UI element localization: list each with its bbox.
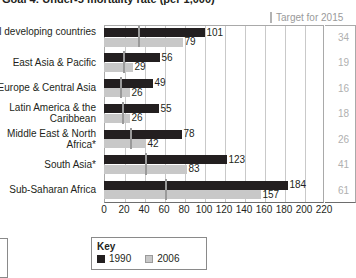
legend-swatch-2006: [145, 255, 153, 263]
bar-1990: [104, 181, 288, 190]
target-value: 18: [325, 108, 349, 119]
bar-value-2006: 42: [148, 139, 159, 149]
legend: Key 19902006: [91, 237, 207, 270]
target-column-header-label: Target for 2015: [276, 12, 343, 23]
category-label: Latin America & the Caribbean: [0, 102, 96, 124]
gridline: [185, 26, 186, 202]
bar-value-1990: 49: [155, 78, 166, 88]
target-value: 41: [325, 159, 349, 170]
legend-label: 2006: [157, 254, 179, 264]
bar-value-1990: 56: [162, 53, 173, 63]
bar-value-1990: 55: [161, 104, 172, 114]
category-label: All developing countries: [0, 26, 96, 37]
legend-item: 2006: [145, 254, 179, 264]
bar-value-2006: 79: [185, 37, 196, 47]
bar-1990: [104, 130, 182, 139]
legend-items: 19902006: [97, 254, 206, 264]
bar-2006: [104, 190, 261, 199]
bar-value-1990: 101: [207, 28, 224, 38]
gridline: [205, 26, 206, 202]
bar-2006: [104, 88, 130, 97]
gridline: [145, 26, 146, 202]
bar-value-2006: 26: [132, 113, 143, 123]
legend-swatch-1990: [97, 255, 105, 263]
legend-title: Key: [97, 241, 206, 252]
target-marker: [138, 26, 140, 47]
x-axis: 020406080100120140160180200220: [104, 204, 325, 218]
target-marker: [120, 77, 122, 98]
target-value: 19: [325, 57, 349, 68]
bar-value-2006: 29: [135, 62, 146, 72]
bar-2006: [104, 63, 133, 72]
bar-1990: [104, 53, 160, 62]
gridline: [285, 26, 286, 202]
decorative-corner-box: [0, 238, 8, 278]
gridline: [245, 26, 246, 202]
target-value-column: 34191618264161: [325, 25, 356, 203]
category-label: East Asia & Pacific: [0, 57, 96, 68]
legend-item: 1990: [97, 254, 131, 264]
x-axis-tick-label: 220: [312, 204, 336, 216]
target-marker: [123, 51, 125, 72]
bar-2006: [104, 114, 130, 123]
gridline: [305, 26, 306, 202]
legend-label: 1990: [109, 254, 131, 264]
target-marker: [145, 153, 147, 174]
page-title: Goal 4: Under-5 mortality rate (per 1,00…: [2, 0, 302, 6]
category-label: South Asia*: [0, 159, 96, 170]
bar-value-1990: 184: [290, 180, 307, 190]
category-label: Sub-Saharan Africa: [0, 184, 96, 195]
category-label: Middle East & North Africa*: [0, 128, 96, 150]
bar-value-2006: 26: [132, 88, 143, 98]
bar-value-1990: 123: [229, 155, 246, 165]
category-label: Europe & Central Asia: [0, 82, 96, 93]
target-value: 61: [325, 185, 349, 196]
bar-1990: [104, 79, 153, 88]
vertical-tick-icon: [270, 12, 272, 23]
bar-value-2006: 83: [189, 164, 200, 174]
target-column-header: Target for 2015: [270, 11, 343, 24]
target-marker: [165, 179, 167, 200]
gridline: [265, 26, 266, 202]
bar-2006: [104, 139, 146, 148]
target-marker: [122, 102, 124, 123]
target-marker: [130, 128, 132, 149]
target-value: 26: [325, 134, 349, 145]
bar-value-1990: 78: [184, 129, 195, 139]
target-value: 34: [325, 32, 349, 43]
bar-2006: [104, 38, 183, 47]
bar-value-2006: 157: [263, 190, 280, 200]
bar-1990: [104, 155, 227, 164]
target-value: 16: [325, 83, 349, 94]
gridline: [225, 26, 226, 202]
